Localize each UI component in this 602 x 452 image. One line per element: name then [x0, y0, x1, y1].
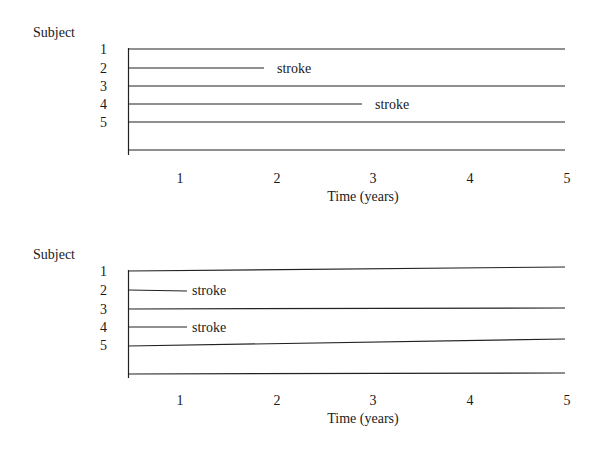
x-tick-1: 1 — [177, 393, 184, 408]
subject-label-1: 1 — [100, 42, 107, 57]
chart-bottom: Subject 1 2 3 4 5 stroke stroke 1 2 3 4 … — [33, 247, 571, 427]
event-label: stroke — [192, 283, 226, 298]
figure: Subject 1 2 3 4 5 stroke stroke 1 2 3 4 … — [0, 0, 602, 452]
subject-line-2 — [128, 290, 187, 291]
subject-line-3 — [128, 308, 565, 309]
chart-top: Subject 1 2 3 4 5 stroke stroke 1 2 3 4 … — [33, 25, 571, 205]
subject-label-4: 4 — [100, 320, 107, 335]
subject-label-1: 1 — [100, 264, 107, 279]
subject-label-2: 2 — [100, 61, 107, 76]
x-axis-title: Time (years) — [327, 189, 399, 205]
subject-line-5 — [128, 339, 565, 346]
subject-label-5: 5 — [100, 115, 107, 130]
y-axis-title: Subject — [33, 247, 75, 262]
event-label: stroke — [277, 61, 311, 76]
subject-line-1 — [128, 267, 565, 271]
subject-label-3: 3 — [100, 79, 107, 94]
subject-label-4: 4 — [100, 97, 107, 112]
subject-label-5: 5 — [100, 338, 107, 353]
x-tick-5: 5 — [564, 171, 571, 186]
subject-label-2: 2 — [100, 283, 107, 298]
subject-label-3: 3 — [100, 302, 107, 317]
event-label: stroke — [375, 97, 409, 112]
x-tick-1: 1 — [177, 171, 184, 186]
x-tick-2: 2 — [274, 393, 281, 408]
x-axis — [128, 373, 565, 374]
x-tick-3: 3 — [370, 393, 377, 408]
x-tick-5: 5 — [564, 393, 571, 408]
x-tick-4: 4 — [467, 171, 474, 186]
x-tick-2: 2 — [274, 171, 281, 186]
event-label: stroke — [192, 320, 226, 335]
x-tick-4: 4 — [467, 393, 474, 408]
x-axis-title: Time (years) — [327, 411, 399, 427]
x-tick-3: 3 — [370, 171, 377, 186]
y-axis-title: Subject — [33, 25, 75, 40]
